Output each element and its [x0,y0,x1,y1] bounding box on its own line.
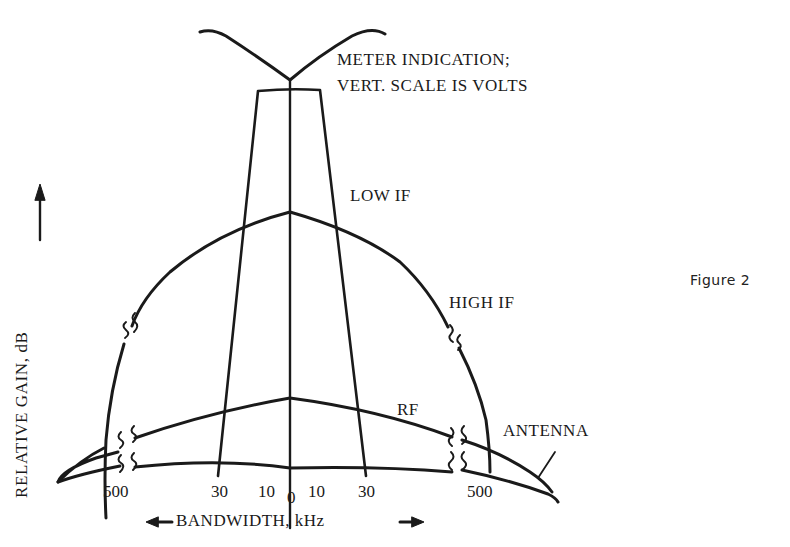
tick-right-30: 30 [358,482,375,502]
high-if-label: HIGH IF [449,293,514,313]
antenna-label: ANTENNA [503,421,589,441]
tick-left-30: 30 [211,482,228,502]
vert-scale-label: VERT. SCALE IS VOLTS [337,76,528,96]
antenna-curve [135,463,452,472]
figure-caption: Figure 2 [690,272,750,288]
meter-indication-label: METER INDICATION; [337,50,510,70]
x-axis-label: BANDWIDTH, kHz [176,511,325,531]
antenna-leader-line [538,452,555,478]
tick-zero: 0 [287,488,296,508]
low-if-curve [218,89,366,476]
high-if-curve [132,212,290,326]
tick-left-10: 10 [258,482,275,502]
tick-left-500: 500 [103,482,129,502]
tick-right-10: 10 [308,482,325,502]
y-axis-label: RELATIVE GAIN, dB [12,332,32,499]
low-if-label: LOW IF [350,186,411,206]
rf-label: RF [397,400,419,420]
axis-break-mark [124,322,129,338]
tick-right-500: 500 [467,482,493,502]
